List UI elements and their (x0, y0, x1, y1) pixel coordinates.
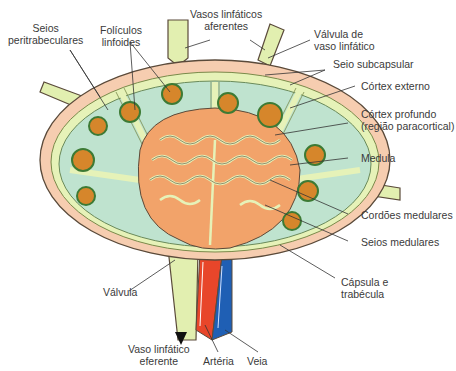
label-arteria: Artéria (203, 355, 234, 367)
label-capsula-trabecula: Cápsula e trabécula (341, 276, 388, 300)
label-valvula-vaso-linfatico: Válvula de vaso linfático (314, 28, 375, 52)
label-vaso-linfatico-eferente: Vaso linfático eferente (128, 343, 190, 367)
lymph-node-illustration (0, 0, 456, 371)
label-cortex-profundo: Córtex profundo (região paracortical) (361, 108, 454, 132)
label-vasos-linfaticos-aferentes: Vasos linfáticos aferentes (190, 8, 262, 32)
label-seios-medulares: Seios medulares (361, 236, 439, 248)
label-seios-peritrabeculares: Seios peritrabeculares (8, 22, 83, 46)
label-valvula: Válvula (103, 286, 137, 298)
label-medula: Medula (361, 152, 395, 164)
label-seio-subcapsular: Seio subcapsular (333, 58, 414, 70)
label-veia: Veia (247, 355, 267, 367)
label-foliculos-linfoides: Folículos linfoides (100, 24, 142, 48)
label-cortex-externo: Córtex externo (361, 80, 430, 92)
hilum-vessels (168, 248, 232, 340)
label-cordoes-medulares: Cordões medulares (361, 209, 453, 221)
